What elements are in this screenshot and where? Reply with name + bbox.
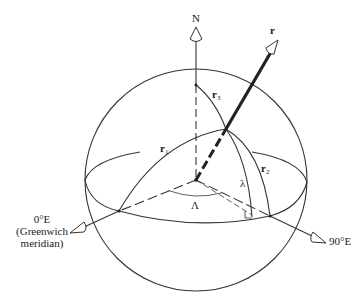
diagram-canvas	[0, 0, 364, 299]
arrowhead-0e-icon	[70, 222, 86, 233]
axis-90e-hidden	[196, 180, 270, 216]
label-0e: 0°E (Greenwich meridian)	[12, 213, 72, 249]
sphere-diagram: N r r3 r1 r2 λ Λ 0°E (Greenwich meridian…	[0, 0, 364, 299]
meridian-lambda	[226, 129, 252, 217]
label-90e: 90°E	[329, 235, 351, 247]
equator-back	[85, 152, 140, 180]
point-0e	[118, 210, 121, 213]
label-north: N	[192, 12, 200, 24]
vector-r	[226, 52, 271, 129]
label-lambda: λ	[240, 177, 245, 189]
axis-0e	[84, 211, 119, 227]
vector-r-hidden	[196, 129, 226, 180]
angle-Lambda-arc	[170, 191, 221, 196]
arrowhead-90e-icon	[311, 232, 326, 243]
arrowhead-r-icon	[266, 40, 278, 54]
label-r1: r1	[160, 142, 168, 158]
axis-90e	[270, 216, 312, 236]
arc-r1	[119, 129, 226, 211]
origin-point	[194, 178, 198, 182]
arc-r3	[196, 85, 226, 129]
label-r: r	[270, 24, 275, 36]
arrowhead-north-icon	[190, 27, 202, 42]
label-r3: r3	[212, 88, 220, 104]
point-north	[195, 84, 198, 87]
point-90e	[269, 215, 272, 218]
axis-0e-hidden	[119, 180, 196, 211]
label-Lambda: Λ	[191, 199, 199, 211]
label-r2: r2	[261, 162, 269, 178]
